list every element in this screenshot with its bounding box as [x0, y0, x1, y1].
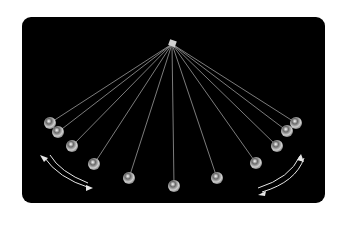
pendulum-ball [123, 172, 135, 184]
pendulum-string [72, 44, 172, 146]
pendulum-ball [281, 125, 293, 137]
pendulum-string [172, 44, 256, 163]
pendulum-ball [44, 117, 56, 129]
pendulum-ball [66, 140, 78, 152]
pendulum-string [172, 44, 277, 146]
pendulum-string [172, 44, 217, 178]
right-swing-arrows [258, 154, 304, 196]
pendulum-string [50, 44, 172, 123]
left-swing-arrows [40, 155, 93, 191]
pendulum-string [172, 44, 287, 131]
pendulum-ball [211, 172, 223, 184]
pendulum-ball [250, 157, 262, 169]
pendulum-wave-illustration [0, 0, 345, 244]
pendulum-string [172, 44, 174, 186]
pendulum-ball [52, 126, 64, 138]
pendulum-ball [271, 140, 283, 152]
pendulum-string [172, 44, 296, 123]
pendulum-ball [168, 180, 180, 192]
pendulum-string [58, 44, 172, 132]
pendulum-string [94, 44, 172, 164]
pendulum-string [129, 44, 172, 178]
pendulum-ball [88, 158, 100, 170]
pendulum-ball [290, 117, 302, 129]
